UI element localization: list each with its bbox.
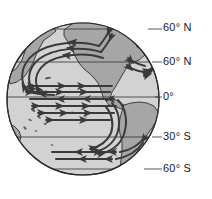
latitude-label-0: 0°: [163, 90, 174, 102]
latitude-label-60s: 60° S: [163, 162, 191, 174]
latitude-label-60n-lower: 60° N: [163, 55, 192, 67]
latitude-label-30s: 30° S: [163, 130, 191, 142]
latitude-label-60n-upper: 60° N: [163, 21, 192, 33]
ocean-currents-globe-figure: 60° N 60° N 0° 30° S 60° S: [0, 0, 212, 199]
